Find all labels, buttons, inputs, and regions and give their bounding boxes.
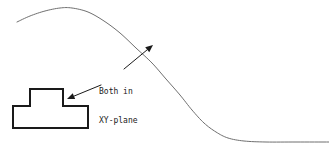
annotation-line-2: XY-plane [99,116,138,126]
annotation-line-1: Both in [99,87,138,97]
annotation-text-block: Both in XY-plane [99,68,138,144]
diagram-canvas [0,0,329,151]
figure-root: Both in XY-plane [0,0,329,151]
